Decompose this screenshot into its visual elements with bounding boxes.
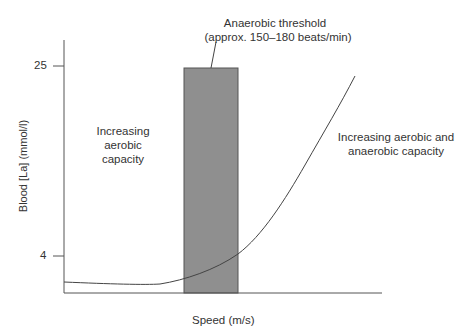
left-annotation-2: aerobic <box>88 138 158 152</box>
left-annotation-3: capacity <box>88 152 158 166</box>
left-annotation-1: Increasing <box>88 124 158 138</box>
x-axis-label: Speed (m/s) <box>192 313 272 327</box>
right-annotation-2: anaerobic capacity <box>336 144 455 158</box>
right-annotation-1: Increasing aerobic and <box>336 130 455 144</box>
threshold-subtitle: (approx. 150–180 beats/min) <box>198 30 358 44</box>
y-axis-label: Blood [La] (mmol/l) <box>17 111 29 221</box>
chart-canvas <box>0 0 455 332</box>
y-tick-label-4: 4 <box>40 249 46 261</box>
threshold-leader-line <box>211 42 216 68</box>
threshold-title: Anaerobic threshold <box>210 16 340 30</box>
y-tick-label-25: 25 <box>34 59 47 71</box>
